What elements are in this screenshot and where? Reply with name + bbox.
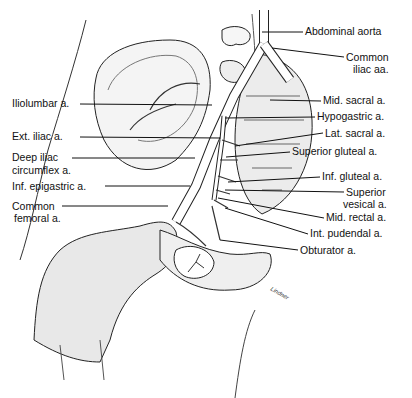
label-mid-sacral: Mid. sacral a.: [323, 95, 385, 106]
label-ext-iliac: Ext. iliac a.: [12, 131, 63, 142]
label-obturator: Obturator a.: [300, 245, 356, 256]
label-superior-vesical-line1: Superior: [346, 187, 386, 198]
vertebra-upper: [222, 27, 250, 46]
label-mid-rectal: Mid. rectal a.: [326, 212, 386, 223]
artist-signature: Lindner: [270, 286, 291, 302]
label-hypogastric: Hypogastric a.: [317, 111, 384, 122]
label-common-femoral-line2: femoral a.: [14, 213, 61, 224]
label-common-iliac-line2: iliac aa.: [353, 64, 389, 75]
label-deep-iliac-circumflex-line2: circumflex a.: [12, 165, 71, 176]
body-outline-right: [235, 310, 255, 398]
label-int-pudendal: Int. pudendal a.: [310, 228, 382, 239]
label-lat-sacral: Lat. sacral a.: [325, 128, 385, 139]
label-abdominal-aorta: Abdominal aorta: [305, 26, 381, 37]
label-iliolumbar: Iliolumbar a.: [12, 98, 69, 109]
label-inf-gluteal: Inf. gluteal a.: [322, 171, 382, 182]
label-superior-gluteal: Superior gluteal a.: [292, 146, 377, 157]
label-superior-vesical-line2: vesical a.: [343, 199, 387, 210]
label-common-femoral-line1: Common: [12, 201, 55, 212]
label-inf-epigastric: Inf. epigastric a.: [12, 181, 86, 192]
label-deep-iliac-circumflex-line1: Deep iliac: [12, 152, 58, 163]
label-common-iliac-line1: Common: [346, 52, 389, 63]
femur: [34, 222, 177, 362]
